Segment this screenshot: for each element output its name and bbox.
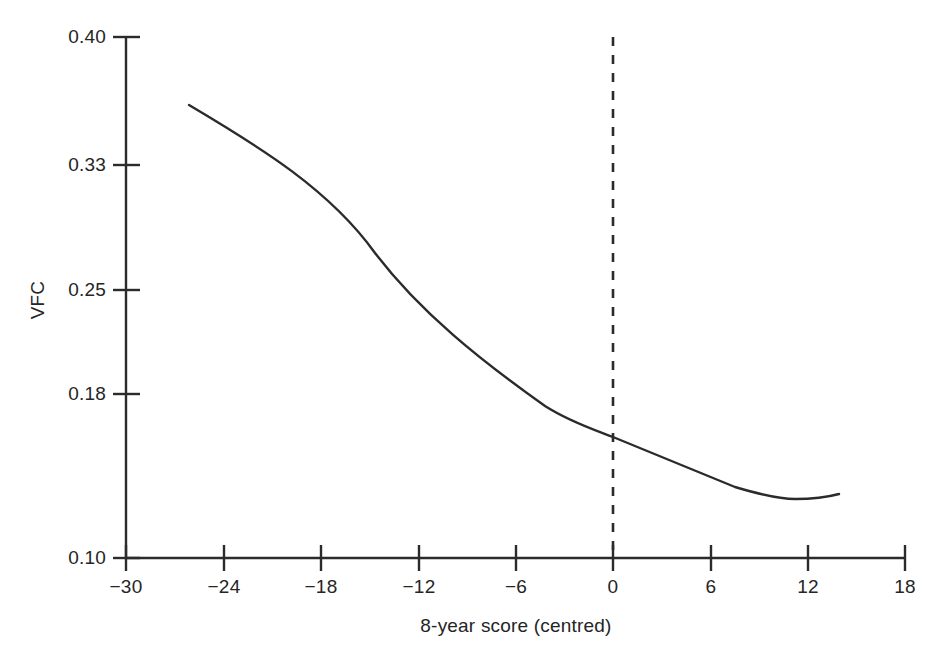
x-tick-label-neg6: −6 (505, 576, 527, 598)
y-axis-title: VFC (27, 281, 49, 320)
vfc-curve (189, 105, 839, 499)
x-tick-label-18: 18 (894, 576, 916, 598)
y-tick-label-025: 0.25 (40, 279, 106, 301)
x-tick-label-neg30: −30 (110, 576, 143, 598)
x-tick-label-neg12: −12 (403, 576, 436, 598)
y-tick-label-018: 0.18 (40, 383, 106, 405)
y-tick-label-033: 0.33 (40, 154, 106, 176)
y-tick-label-010: 0.10 (40, 547, 106, 569)
chart-figure: 0.40 0.33 0.25 0.18 0.10 −30 −24 −18 −12… (0, 0, 940, 661)
x-tick-label-6: 6 (706, 576, 717, 598)
x-axis-title: 8-year score (centred) (420, 615, 611, 637)
x-tick-label-neg24: −24 (208, 576, 241, 598)
x-tick-label-neg18: −18 (305, 576, 338, 598)
plot-canvas (0, 0, 940, 661)
x-tick-label-0: 0 (608, 576, 619, 598)
y-tick-label-040: 0.40 (40, 26, 106, 48)
x-tick-label-12: 12 (797, 576, 819, 598)
